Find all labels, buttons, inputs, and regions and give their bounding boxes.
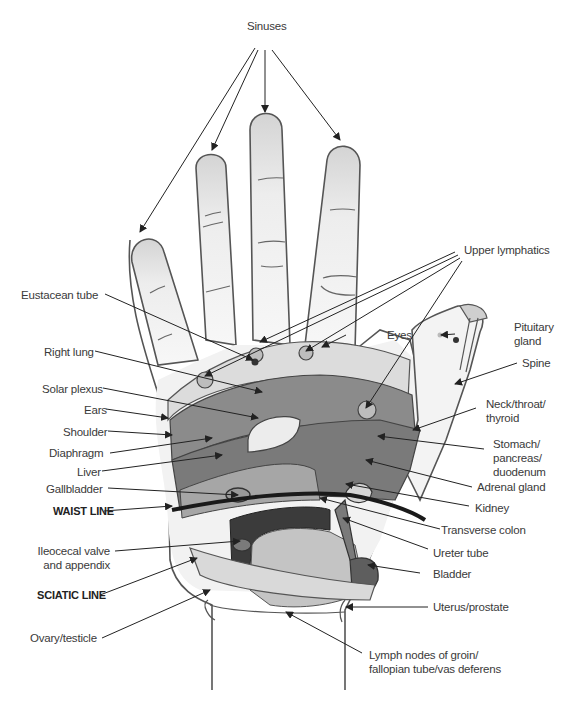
little-finger (132, 239, 198, 365)
fingers (132, 114, 360, 366)
label-lymph-nodes-groin: Lymph nodes of groin/ fallopian tube/vas… (369, 648, 501, 676)
label-shoulder: Shoulder (63, 425, 107, 439)
label-ears: Ears (84, 403, 107, 417)
label-gallbladder: Gallbladder (46, 482, 103, 496)
label-liver: Liver (77, 465, 101, 479)
label-eustacean-tube: Eustacean tube (21, 288, 98, 302)
label-pituitary-gland: Pituitary gland (514, 320, 554, 348)
middle-finger (250, 114, 290, 346)
label-ileocecal-line2: and appendix (30, 558, 110, 572)
label-diaphragm: Diaphragm (49, 446, 103, 460)
label-eyes: Eyes (387, 328, 412, 342)
label-stomach-line1: Stomach/ (493, 437, 546, 451)
label-pituitary-line1: Pituitary (514, 320, 554, 334)
label-adrenal-gland: Adrenal gland (477, 480, 545, 494)
label-sinuses: Sinuses (247, 19, 287, 33)
label-stomach-pancreas-duodenum: Stomach/ pancreas/ duodenum (493, 437, 546, 479)
label-spine: Spine (522, 356, 550, 370)
label-pituitary-line2: gland (514, 334, 554, 348)
label-neck-line2: thyroid (486, 411, 546, 425)
label-ureter-tube: Ureter tube (433, 546, 488, 560)
label-right-lung: Right lung (44, 345, 94, 359)
label-kidney: Kidney (475, 501, 509, 515)
label-neck-throat-thyroid: Neck/throat/ thyroid (486, 397, 546, 425)
label-uterus-prostate: Uterus/prostate (433, 600, 509, 614)
label-stomach-line2: pancreas/ (493, 451, 546, 465)
label-upper-lymphatics: Upper lymphatics (464, 243, 550, 257)
label-lymph-line2: fallopian tube/vas deferens (369, 662, 501, 676)
label-ileocecal-valve: Ileocecal valve and appendix (30, 544, 110, 572)
label-waist-line: WAIST LINE (53, 504, 114, 518)
label-stomach-line3: duodenum (493, 465, 546, 479)
index-finger (305, 146, 360, 350)
label-ileocecal-line1: Ileocecal valve (30, 544, 110, 558)
label-solar-plexus: Solar plexus (42, 382, 103, 396)
label-neck-line1: Neck/throat/ (486, 397, 546, 411)
label-sciatic-line: SCIATIC LINE (37, 588, 106, 602)
label-ovary-testicle: Ovary/testicle (30, 631, 97, 645)
label-transverse-colon: Transverse colon (441, 523, 526, 537)
ring-finger (196, 155, 236, 346)
label-bladder: Bladder (433, 567, 471, 581)
label-lymph-line1: Lymph nodes of groin/ (369, 648, 501, 662)
